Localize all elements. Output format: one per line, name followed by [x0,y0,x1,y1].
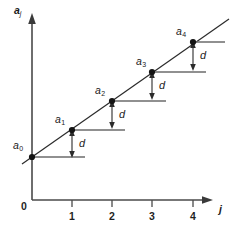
x-axis-arrowhead [202,196,213,204]
point-label-a0-base: a [13,139,19,151]
data-point-a4 [190,39,196,45]
difference-arrow-1 [69,129,75,158]
difference-label-3: d [159,80,165,91]
point-label-a4-base: a [176,25,182,37]
point-label-a2-subscript: 2 [101,90,105,97]
x-tick-label-2: 2 [109,211,115,222]
point-label-a0-subscript: 0 [19,145,23,152]
point-label-a3-base: a [136,55,142,67]
data-point-a0 [29,154,35,160]
difference-arrow-3 [149,71,155,100]
point-label-a1: a1 [55,114,65,125]
difference-label-2: d [119,109,125,120]
data-point-a1 [69,127,75,133]
arithmetic-sequence-figure: aj j 0 1 2 3 4 a0 a1 a2 a3 a4 d d d d [0,0,243,233]
difference-label-1: d [79,138,85,149]
data-point-a3 [149,69,155,75]
point-label-a0: a0 [13,140,23,151]
point-label-a4-subscript: 4 [182,31,186,38]
point-label-a1-base: a [55,113,61,125]
point-label-a2-base: a [95,84,101,96]
x-tick-label-3: 3 [149,211,155,222]
y-axis-label-text: a [14,4,20,16]
origin-label: 0 [21,201,27,212]
x-tick-label-1: 1 [69,211,75,222]
data-point-a2 [109,98,115,104]
x-tick-label-4: 4 [190,211,196,222]
point-label-a4: a4 [176,26,186,37]
reference-lines-group [32,42,225,157]
x-axis-label: j [219,204,222,215]
difference-arrow-2 [109,100,115,129]
y-axis-arrowhead [28,13,36,24]
point-label-a3: a3 [136,56,146,67]
difference-arrows-group [69,41,196,158]
point-label-a2: a2 [95,85,105,96]
point-label-a1-subscript: 1 [61,119,65,126]
difference-label-4: d [200,50,206,61]
sequence-trend-line [22,19,229,164]
x-tick-marks [72,200,193,207]
y-axis-label: aj [14,5,21,16]
point-label-a3-subscript: 3 [142,61,146,68]
